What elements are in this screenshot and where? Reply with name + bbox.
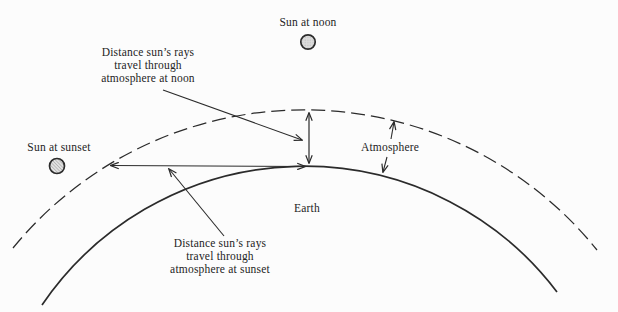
- noon-distance-label-line3: atmosphere at noon: [101, 72, 195, 85]
- sun-sunset-icon: [50, 159, 65, 174]
- sunset-distance-label-line1: Distance sun’s rays: [174, 237, 267, 250]
- earth-surface-arc: [42, 166, 557, 305]
- atmosphere-diagram: Sun at noon Distance sun’s rays travel t…: [0, 0, 618, 312]
- atmosphere-boundary-arc: [13, 110, 597, 250]
- noon-distance-label-line1: Distance sun’s rays: [102, 46, 195, 59]
- earth-label: Earth: [294, 202, 320, 214]
- sunset-distance-label-line2: travel through: [186, 250, 254, 263]
- noon-label-leader-line: [163, 90, 302, 140]
- sun-sunset-label: Sun at sunset: [27, 141, 91, 153]
- sun-noon-label: Sun at noon: [279, 16, 336, 28]
- sunset-distance-label-line3: atmosphere at sunset: [170, 263, 270, 276]
- atmosphere-arrow-lower: [383, 157, 387, 172]
- atmosphere-arrow-upper: [391, 122, 394, 139]
- noon-distance-label-line2: travel through: [114, 59, 182, 72]
- diagram-canvas: Sun at noon Distance sun’s rays travel t…: [0, 0, 618, 312]
- sunset-ray-double-arrow: [111, 166, 305, 167]
- sun-noon-icon: [301, 35, 315, 49]
- atmosphere-label: Atmosphere: [361, 141, 419, 154]
